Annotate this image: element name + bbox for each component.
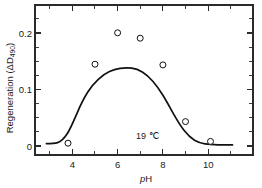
data-point <box>137 35 143 41</box>
data-point <box>65 140 71 146</box>
data-point <box>92 61 98 67</box>
y-axis-major-ticks <box>35 33 41 146</box>
y-axis-title-main: Regeneration ( <box>4 70 15 134</box>
y-axis-title-delta-d: ΔD <box>4 57 15 70</box>
chart-figure: 0.2 0.1 0 4 6 8 10 pH Regeneration (ΔD49… <box>0 0 262 188</box>
data-point <box>183 119 189 125</box>
x-axis-title-h: H <box>145 173 152 184</box>
temperature-annotation: 19 ℃ <box>136 131 159 141</box>
y-axis-title-close: ) <box>4 43 15 46</box>
y-axis-title-subscript: 490 <box>9 46 16 58</box>
chart-plot-area: 0.2 0.1 0 4 6 8 10 pH Regeneration (ΔD49… <box>0 0 262 188</box>
x-axis-title: pH <box>139 173 152 184</box>
data-point <box>160 62 166 68</box>
x-tick-label-8: 8 <box>160 159 165 170</box>
y-axis-title-group: Regeneration (ΔD490) <box>4 43 16 134</box>
y-axis-minor-ticks <box>35 19 39 132</box>
y-tick-label-0: 0 <box>27 141 32 152</box>
x-tick-label-10: 10 <box>203 159 214 170</box>
data-point <box>115 30 121 36</box>
y-tick-label-0-2: 0.2 <box>19 28 32 39</box>
x-tick-label-6: 6 <box>115 159 120 170</box>
x-axis-minor-ticks <box>50 151 231 155</box>
data-point <box>208 138 214 144</box>
y-axis-right-ticks <box>247 19 253 146</box>
x-tick-label-4: 4 <box>70 159 75 170</box>
y-axis-title: Regeneration (ΔD490) <box>4 43 16 134</box>
x-axis-top-ticks <box>50 5 231 11</box>
y-tick-label-0-1: 0.1 <box>19 84 32 95</box>
data-markers <box>65 30 214 146</box>
